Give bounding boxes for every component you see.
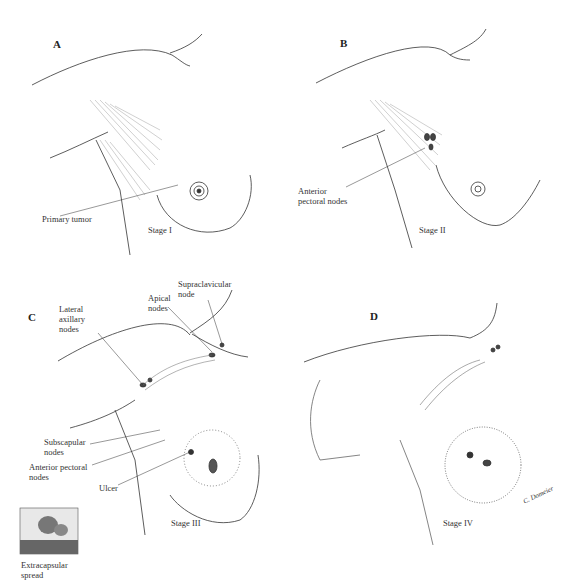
stage-iii-label: Stage III [171, 518, 201, 528]
stage-ii-label: Stage II [419, 225, 446, 235]
panel-d-drawing [304, 303, 521, 545]
label-lateral-axillary-nodes: Lateral axillary nodes [59, 304, 85, 334]
panel-b-letter: B [340, 37, 347, 49]
stage-i-label: Stage I [148, 225, 172, 235]
panel-c-drawing [58, 290, 259, 535]
label-extracapsular-spread: Extracapsular spread [21, 560, 68, 580]
label-anterior-pectoral-nodes-c: Anterior pectoral nodes [29, 462, 87, 482]
extracapsular-inset-drawing [20, 508, 78, 554]
label-supraclavicular-node: Supraclavicular node [178, 279, 231, 299]
label-apical-nodes: Apical nodes [148, 293, 171, 313]
label-subscapular-nodes: Subscapular nodes [44, 437, 86, 457]
panel-a-letter: A [53, 38, 61, 50]
label-primary-tumor: Primary tumor [42, 214, 92, 224]
panel-c-letter: C [28, 311, 36, 323]
label-ulcer: Ulcer [99, 483, 118, 493]
label-anterior-pectoral-nodes: Anterior pectoral nodes [298, 186, 347, 206]
panel-d-letter: D [370, 310, 378, 322]
stage-iv-label: Stage IV [443, 518, 473, 528]
panel-b-drawing [316, 29, 540, 248]
illustration-canvas [0, 0, 573, 585]
